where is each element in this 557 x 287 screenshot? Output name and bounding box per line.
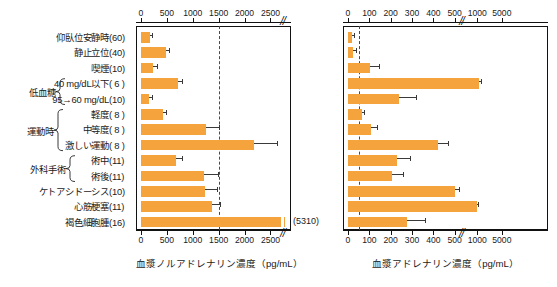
chart-adrenaline (343, 26, 548, 230)
bar-row (343, 215, 548, 230)
plot-area-right (343, 26, 548, 230)
bar (348, 63, 370, 74)
bar-row (343, 184, 548, 199)
error-bar-cap (219, 125, 220, 130)
row-label-text: 仰臥位安静時 (56, 32, 109, 43)
row-sample-count: ( 8 ) (109, 107, 134, 122)
axis-line (136, 230, 291, 231)
row-label: 心筋梗塞 (11) (74, 199, 134, 214)
bar (141, 78, 178, 89)
row-label-text: 40 mg/dL以下 (54, 78, 109, 89)
axis-break-mark: // (459, 227, 464, 238)
bar (348, 94, 399, 105)
group-label: 低血糖 (29, 85, 56, 99)
error-bar-cap (152, 33, 153, 38)
x-axis-title-right: 血漿アドレナリン濃度（pg/mL） (343, 256, 548, 270)
error-bar-cap (410, 156, 411, 161)
error-bar (397, 158, 410, 159)
row-sample-count: (11) (109, 169, 134, 184)
error-bar-cap (425, 218, 426, 223)
bar-row (136, 45, 291, 60)
bar-row (343, 107, 548, 122)
error-bar (205, 189, 217, 190)
row-label: 40 mg/dL以下 ( 6 ) (54, 76, 134, 91)
row-sample-count: (10) (109, 61, 134, 76)
row-label: 褐色細胞腫 (16) (65, 215, 134, 230)
error-bar (399, 97, 416, 98)
bar (141, 32, 150, 43)
chart-noradrenaline (136, 26, 291, 230)
row-label-text: ケトアシドーシス (39, 186, 109, 197)
row-sample-count: ( 8 ) (109, 122, 134, 137)
row-label: 術後 (11) (91, 169, 134, 184)
row-label-text: 術後 (91, 171, 109, 182)
row-label: 中等度 ( 8 ) (83, 122, 134, 137)
row-sample-count: ( 6 ) (109, 76, 134, 91)
axis-line (343, 22, 548, 23)
bar (348, 47, 353, 58)
bar (348, 78, 479, 89)
bar (348, 109, 362, 120)
row-sample-count: (10) (109, 184, 134, 199)
bar (141, 109, 163, 120)
row-label-text: 褐色細胞腫 (65, 217, 109, 228)
row-label: 仰臥位安静時 (60) (56, 30, 134, 45)
bar-row (343, 76, 548, 91)
bar (141, 217, 285, 228)
row-label: 軽度 ( 8 ) (91, 107, 134, 122)
row-label-text: 軽度 (91, 109, 109, 120)
axis-tick (245, 18, 246, 22)
bar-row (343, 138, 548, 153)
error-bar-cap (356, 48, 357, 53)
axis-tick (348, 18, 349, 22)
bar-row (136, 30, 291, 45)
error-bar-cap (217, 187, 218, 192)
row-sample-count: (11) (109, 153, 134, 168)
error-bar (407, 220, 425, 221)
row-label: 喫煙 (10) (91, 61, 134, 76)
error-bar (206, 127, 219, 128)
error-bar (204, 174, 218, 175)
axis-break-mark: // (280, 15, 285, 26)
bar (141, 171, 204, 182)
bar (141, 186, 205, 197)
row-label-text: 95→60 mg/dL (52, 94, 109, 105)
axis-tick (391, 18, 392, 22)
overflow-value-label: (5310) (293, 216, 319, 226)
bar (348, 171, 392, 182)
axis-break-mark: // (459, 15, 464, 26)
axis-tick (219, 18, 220, 22)
bar (348, 186, 455, 197)
bar-row (136, 76, 291, 91)
error-bar-cap (218, 172, 219, 177)
bar-row (136, 184, 291, 199)
bar-row (136, 153, 291, 168)
error-bar-cap (157, 64, 158, 69)
bar (348, 201, 477, 212)
row-label-text: 激しい運動 (65, 140, 109, 151)
axis-tick (477, 18, 478, 22)
row-sample-count: ( 8 ) (109, 138, 134, 153)
axis-tick (412, 18, 413, 22)
row-label-text: 喫煙 (91, 63, 109, 74)
row-label: 激しい運動 ( 8 ) (65, 138, 134, 153)
axis-tick (270, 18, 271, 22)
axis-tick (369, 18, 370, 22)
bar (141, 63, 153, 74)
x-axis-bottom-left: 05001000150020002500// (136, 230, 291, 248)
error-bar-cap (354, 33, 355, 38)
error-bar-cap (364, 110, 365, 115)
row-label: 静止立位 (40) (74, 45, 134, 60)
error-bar-cap (379, 64, 380, 69)
row-sample-count: (16) (109, 215, 134, 230)
error-bar (438, 143, 449, 144)
bar-row (343, 61, 548, 76)
bar-row (343, 169, 548, 184)
error-bar-cap (152, 95, 153, 100)
bar-row (136, 107, 291, 122)
error-bar-cap (182, 79, 183, 84)
error-bar (392, 174, 404, 175)
axis-tick (167, 18, 168, 22)
x-axis-top-left: 05001000150020002500// (136, 8, 291, 26)
bar (141, 140, 254, 151)
